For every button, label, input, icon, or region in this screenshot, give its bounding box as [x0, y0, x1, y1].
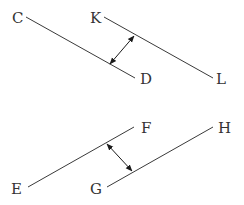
- label-g: G: [90, 180, 102, 198]
- distance-arrow-cd-kl: [110, 36, 134, 64]
- segment-ef: [28, 127, 134, 187]
- diagram-canvas: C K D L F H E G: [0, 0, 244, 205]
- segment-cd: [26, 17, 135, 78]
- label-l: L: [216, 70, 226, 88]
- label-k: K: [90, 9, 102, 27]
- label-f: F: [141, 119, 151, 137]
- label-d: D: [140, 70, 152, 88]
- label-h: H: [218, 119, 231, 137]
- parallel-lines-diagram: C K D L F H E G: [0, 0, 244, 205]
- label-e: E: [11, 180, 22, 198]
- distance-arrow-ef-gh: [107, 144, 132, 171]
- segment-gh: [107, 127, 213, 187]
- segment-kl: [104, 17, 213, 78]
- label-c: C: [12, 9, 23, 27]
